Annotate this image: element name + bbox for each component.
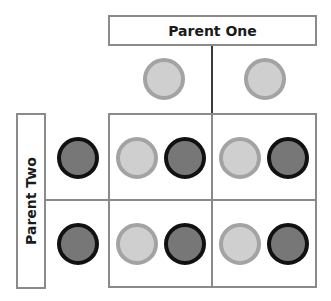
parent-one-label: Parent One	[168, 23, 257, 39]
parent-two-allele-1	[57, 137, 99, 179]
parent-two-divider-line	[46, 199, 108, 201]
parent-two-box: Parent Two	[16, 113, 46, 289]
parent-one-box: Parent One	[108, 15, 317, 46]
cell-2-2-allele-light	[219, 223, 261, 265]
grid-horizontal-divider	[108, 199, 317, 201]
parent-one-allele-1	[143, 58, 185, 100]
cell-2-2-allele-dark	[267, 223, 309, 265]
cell-1-1-allele-light	[116, 137, 158, 179]
cell-1-1-allele-dark	[164, 137, 206, 179]
cell-2-1-allele-light	[116, 223, 158, 265]
cell-1-2-allele-dark	[267, 137, 309, 179]
parent-two-label: Parent Two	[23, 157, 39, 245]
parent-two-allele-2	[57, 223, 99, 265]
parent-one-allele-2	[244, 58, 286, 100]
parent-one-divider-line	[211, 46, 213, 113]
cell-2-1-allele-dark	[164, 223, 206, 265]
cell-1-2-allele-light	[219, 137, 261, 179]
